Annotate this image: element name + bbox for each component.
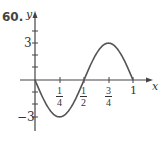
x-tick-label-three-quarters: 34	[105, 86, 112, 108]
x-tick-label-one: 1	[130, 84, 137, 97]
x-tick-label-quarter: 14	[56, 86, 63, 108]
sine-graph	[0, 0, 159, 146]
problem-number: 60.	[2, 10, 23, 24]
x-axis-label: x	[152, 80, 158, 93]
y-axis-label: y	[26, 8, 32, 21]
y-tick-label-neg3: −3	[17, 110, 35, 124]
y-tick-label-3: 3	[24, 36, 32, 50]
x-tick-label-half: 12	[80, 86, 87, 108]
y-axis-arrow-icon	[33, 11, 38, 18]
